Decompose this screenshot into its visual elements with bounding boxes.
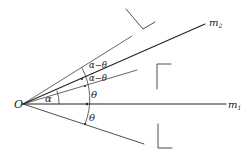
label-origin: O <box>14 98 23 111</box>
label-alpha-minus-theta-lower: α−θ <box>89 73 107 83</box>
label-theta-lower: θ <box>89 112 95 123</box>
diagram-canvas: O m1 m2 α α−θ α−θ θ θ <box>0 0 247 157</box>
arc-tick <box>86 103 88 105</box>
label-m2: m2 <box>209 17 222 29</box>
mirror-bracket-right-lower <box>158 124 172 148</box>
arc-tick <box>84 123 86 125</box>
ray-upper <box>23 36 132 104</box>
arc-tick <box>84 85 86 87</box>
label-alpha-minus-theta-upper: α−θ <box>89 60 107 70</box>
ray-middle <box>23 70 137 104</box>
label-alpha: α <box>45 93 52 104</box>
ray-lower <box>23 104 144 144</box>
arc-tick <box>81 78 83 80</box>
label-theta-upper: θ <box>91 89 97 100</box>
mirror-bracket-right-upper <box>157 64 171 89</box>
label-m1: m1 <box>228 99 241 111</box>
mirror-bracket-top <box>126 9 155 29</box>
alpha-arc <box>57 91 59 104</box>
mirror-angle-diagram: O m1 m2 α α−θ α−θ θ θ <box>0 0 247 157</box>
line-m2 <box>23 24 205 104</box>
